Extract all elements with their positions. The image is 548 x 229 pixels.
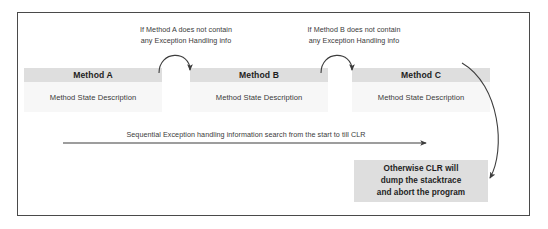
outcome-line-2: dump the stacktrace [381,175,462,187]
method-c-header: Method C [352,68,490,82]
method-b-header: Method B [190,68,328,82]
condition-label-method-b: If Method B does not contain any Excepti… [276,25,432,46]
method-b-description: Method State Description [190,82,328,112]
method-block-a: Method A Method State Description [24,68,162,112]
method-a-description: Method State Description [24,82,162,112]
method-block-b: Method B Method State Description [190,68,328,112]
method-c-description: Method State Description [352,82,490,112]
outcome-line-3: and abort the program [377,187,465,199]
method-a-header: Method A [24,68,162,82]
method-block-c: Method C Method State Description [352,68,490,112]
outcome-box-clr: Otherwise CLR will dump the stacktrace a… [354,160,488,202]
diagram-canvas: If Method A does not contain any Excepti… [0,0,548,229]
outcome-line-1: Otherwise CLR will [383,163,458,175]
condition-label-method-a: If Method A does not contain any Excepti… [108,25,264,46]
sequential-search-label: Sequential Exception handling informatio… [63,130,429,139]
